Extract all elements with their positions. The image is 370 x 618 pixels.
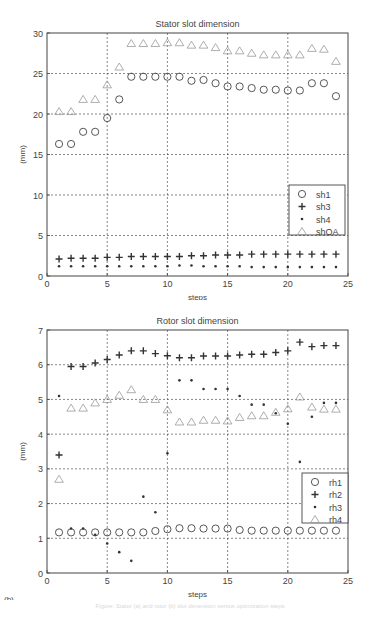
y-tick-label: 7 xyxy=(38,326,43,336)
plus-marker xyxy=(260,251,267,258)
rotor-chart: Rotor slot dimension051015202501234567st… xyxy=(0,300,370,600)
stator-chart: Stator slot dimension0510152025051015202… xyxy=(0,0,370,300)
grid-lines xyxy=(47,330,348,573)
triangle-marker xyxy=(91,399,100,406)
triangle-marker xyxy=(55,108,64,115)
circle-marker xyxy=(320,80,327,87)
dot-marker xyxy=(214,388,217,391)
circle-marker xyxy=(332,527,339,534)
circle-marker xyxy=(296,87,303,94)
plus-marker xyxy=(212,353,219,360)
circle-marker xyxy=(176,525,183,532)
circle-marker xyxy=(55,140,62,147)
plus-marker xyxy=(140,347,147,354)
triangle-marker xyxy=(308,403,317,410)
series-rh1 xyxy=(55,525,339,536)
x-tick-label: 0 xyxy=(44,279,49,289)
circle-marker xyxy=(152,73,159,80)
series-rh4 xyxy=(55,386,341,483)
plus-marker xyxy=(236,251,243,258)
plus-marker xyxy=(320,342,327,349)
triangle-marker xyxy=(127,40,136,47)
triangle-marker xyxy=(320,405,329,412)
triangle-marker xyxy=(115,63,124,70)
triangle-marker xyxy=(91,95,100,102)
circle-marker xyxy=(152,527,159,534)
dot-marker xyxy=(274,412,277,415)
circle-marker xyxy=(140,529,147,536)
circle-marker xyxy=(272,527,279,534)
triangle-marker xyxy=(55,475,64,482)
x-tick-label: 15 xyxy=(223,576,233,586)
dot-marker xyxy=(202,388,205,391)
dot-marker xyxy=(214,265,217,268)
dot-marker xyxy=(190,379,193,382)
plus-marker xyxy=(332,342,339,349)
circle-marker xyxy=(260,527,267,534)
x-tick-label: 25 xyxy=(343,576,353,586)
circle-marker xyxy=(176,73,183,80)
triangle-marker xyxy=(247,49,256,56)
y-tick-label: 6 xyxy=(38,360,43,370)
circle-marker xyxy=(92,128,99,135)
dot-marker xyxy=(238,265,241,268)
dot-marker xyxy=(70,265,73,268)
dot-marker xyxy=(94,265,97,268)
y-tick-label: 0 xyxy=(38,569,43,579)
dot-marker xyxy=(70,527,73,530)
legend-label-sh1: sh1 xyxy=(316,190,331,200)
figure-caption: Figure: Stator (a) and rotor (b) slot di… xyxy=(50,603,330,609)
y-tick-label: 1 xyxy=(38,534,43,544)
circle-marker xyxy=(188,77,195,84)
triangle-marker xyxy=(296,393,305,400)
triangle-marker xyxy=(127,386,136,393)
triangle-marker xyxy=(235,47,244,54)
dot-marker xyxy=(106,542,109,545)
plot-frame xyxy=(47,330,348,573)
x-tick-label: 10 xyxy=(162,279,172,289)
triangle-marker xyxy=(320,45,329,52)
dot-marker xyxy=(311,415,314,418)
y-tick-label: 3 xyxy=(38,464,43,474)
legend-label-shOA: shOA xyxy=(316,227,339,237)
plus-marker xyxy=(260,351,267,358)
dot-marker xyxy=(238,395,241,398)
plus-marker xyxy=(128,347,135,354)
dot-marker xyxy=(142,265,145,268)
dot-marker xyxy=(335,402,338,405)
dot-marker xyxy=(154,265,157,268)
dot-marker xyxy=(202,265,205,268)
plus-marker xyxy=(224,251,231,258)
y-tick-label: 30 xyxy=(33,29,43,39)
dot-marker xyxy=(314,506,317,509)
triangle-marker xyxy=(199,416,208,423)
dot-marker xyxy=(323,266,326,269)
circle-marker xyxy=(248,527,255,534)
triangle-marker xyxy=(235,413,244,420)
circle-marker xyxy=(128,73,135,80)
legend: rh1rh2rh3rh4 xyxy=(302,473,348,525)
plus-marker xyxy=(80,363,87,370)
plus-marker xyxy=(284,347,291,354)
triangle-marker xyxy=(115,391,124,398)
triangle-marker xyxy=(332,405,341,412)
dot-marker xyxy=(299,461,302,464)
dot-marker xyxy=(190,264,193,267)
plus-marker xyxy=(248,251,255,258)
triangle-marker xyxy=(151,395,160,402)
plus-marker xyxy=(188,354,195,361)
dot-marker xyxy=(82,527,85,530)
plus-marker xyxy=(164,352,171,359)
triangle-marker xyxy=(79,404,88,411)
plus-marker xyxy=(92,359,99,366)
series-sh4 xyxy=(58,264,338,268)
legend-label-rh2: rh2 xyxy=(329,490,342,500)
dot-marker xyxy=(118,551,121,554)
dot-marker xyxy=(226,388,229,391)
circle-marker xyxy=(80,128,87,135)
triangle-marker xyxy=(271,51,280,58)
triangle-marker xyxy=(259,412,268,419)
y-tick-label: 15 xyxy=(33,150,43,160)
triangle-marker xyxy=(211,44,220,51)
plus-marker xyxy=(248,351,255,358)
